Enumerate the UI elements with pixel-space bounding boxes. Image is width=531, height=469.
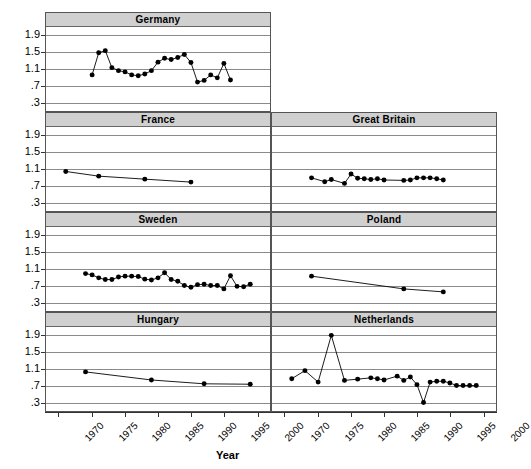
data-point xyxy=(149,68,154,73)
plot-area xyxy=(272,226,496,311)
data-point xyxy=(342,378,347,383)
y-tick-label: .7 xyxy=(6,180,40,191)
data-point xyxy=(401,286,406,291)
data-point xyxy=(109,277,114,282)
plot-area xyxy=(46,326,270,411)
data-point xyxy=(302,368,307,373)
data-point xyxy=(208,283,213,288)
panel-title: France xyxy=(46,113,270,126)
data-point xyxy=(123,69,128,74)
x-tick-mark xyxy=(351,412,352,417)
data-point xyxy=(414,175,419,180)
series-layer xyxy=(46,326,270,411)
data-point xyxy=(408,375,413,380)
data-point xyxy=(421,400,426,405)
data-point xyxy=(241,284,246,289)
y-tick-mark xyxy=(41,69,45,70)
data-point xyxy=(248,382,253,387)
y-tick-mark xyxy=(41,269,45,270)
y-tick-mark xyxy=(41,335,45,336)
y-tick-label: 1.5 xyxy=(6,246,40,257)
data-point xyxy=(202,282,207,287)
data-point xyxy=(169,57,174,62)
data-point xyxy=(103,277,108,282)
plot-area xyxy=(272,326,496,411)
plot-area xyxy=(46,26,270,111)
data-point xyxy=(90,72,95,77)
data-point xyxy=(188,285,193,290)
data-point xyxy=(474,383,479,388)
y-tick-label: 1.1 xyxy=(6,163,40,174)
x-tick-label: 2000 xyxy=(274,420,306,452)
x-tick-mark xyxy=(318,412,319,417)
data-point xyxy=(182,283,187,288)
x-tick-label: 1990 xyxy=(207,420,239,452)
data-point xyxy=(202,381,207,386)
y-tick-mark xyxy=(41,186,45,187)
data-point xyxy=(123,274,128,279)
y-tick-mark xyxy=(41,169,45,170)
y-tick-label: 1.5 xyxy=(6,46,40,57)
y-tick-label: .7 xyxy=(6,380,40,391)
data-point xyxy=(63,169,68,174)
data-point xyxy=(162,56,167,61)
data-point xyxy=(195,282,200,287)
x-tick-mark xyxy=(191,412,192,417)
data-point xyxy=(129,72,134,77)
y-tick-label: 1.9 xyxy=(6,129,40,140)
data-point xyxy=(83,369,88,374)
x-tick-mark xyxy=(158,412,159,417)
x-tick-label: 1980 xyxy=(367,420,399,452)
data-point xyxy=(401,378,406,383)
data-point xyxy=(349,172,354,177)
data-point xyxy=(175,279,180,284)
data-point xyxy=(322,179,327,184)
data-point xyxy=(342,181,347,186)
x-tick-label: 1995 xyxy=(466,420,498,452)
data-point xyxy=(329,333,334,338)
x-tick-mark xyxy=(92,412,93,417)
data-point xyxy=(142,277,147,282)
x-tick-label: 1970 xyxy=(74,420,106,452)
y-tick-label: 1.9 xyxy=(6,29,40,40)
y-tick-mark xyxy=(41,203,45,204)
panel-sweden: Sweden xyxy=(45,212,271,312)
data-point xyxy=(175,55,180,60)
y-tick-label: .3 xyxy=(6,397,40,408)
data-point xyxy=(329,177,334,182)
data-point xyxy=(103,48,108,53)
x-tick-mark xyxy=(258,412,259,417)
x-tick-label: 1970 xyxy=(300,420,332,452)
panel-france: France xyxy=(45,112,271,212)
data-point xyxy=(96,275,101,280)
data-point xyxy=(109,65,114,70)
x-tick-label: 1980 xyxy=(141,420,173,452)
series-line-poland xyxy=(312,276,444,292)
data-point xyxy=(169,277,174,282)
series-layer xyxy=(46,126,270,211)
data-point xyxy=(382,178,387,183)
data-point xyxy=(142,72,147,77)
data-point xyxy=(428,175,433,180)
data-point xyxy=(96,174,101,179)
data-point xyxy=(162,270,167,275)
y-tick-label: .3 xyxy=(6,97,40,108)
data-point xyxy=(235,284,240,289)
data-point xyxy=(83,271,88,276)
data-point xyxy=(355,377,360,382)
data-point xyxy=(289,376,294,381)
data-point xyxy=(362,176,367,181)
plot-area xyxy=(46,226,270,311)
panel-great-britain: Great Britain xyxy=(271,112,497,212)
data-point xyxy=(454,383,459,388)
data-point xyxy=(441,289,446,294)
y-tick-label: .7 xyxy=(6,280,40,291)
y-tick-mark xyxy=(41,86,45,87)
series-layer xyxy=(272,326,496,411)
y-tick-label: 1.9 xyxy=(6,229,40,240)
y-tick-mark xyxy=(41,235,45,236)
y-tick-label: .3 xyxy=(6,297,40,308)
data-point xyxy=(96,50,101,55)
x-tick-mark xyxy=(450,412,451,417)
data-point xyxy=(156,275,161,280)
